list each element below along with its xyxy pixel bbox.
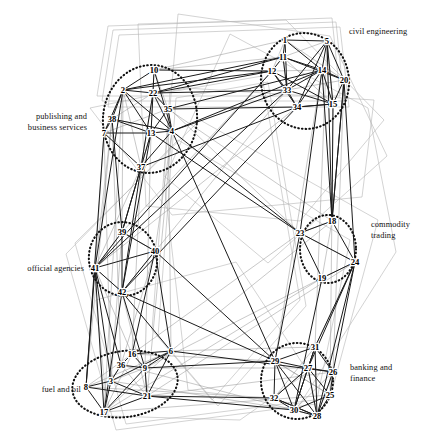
node-label: 17	[100, 407, 109, 417]
node-label: 27	[304, 363, 313, 373]
graph-edge	[168, 109, 332, 221]
node-label: 19	[318, 273, 327, 283]
graph-node-12[interactable]: 1212	[268, 66, 277, 76]
node-label: 42	[118, 287, 127, 297]
graph-node-41[interactable]: 4141	[91, 263, 100, 273]
node-label: 2	[121, 85, 125, 95]
node-label: 31	[311, 342, 320, 352]
node-label: 22	[149, 88, 158, 98]
graph-node-18[interactable]: 1818	[328, 216, 337, 226]
graph-node-21[interactable]: 2121	[143, 391, 152, 401]
graph-node-42[interactable]: 4242	[118, 287, 127, 297]
graph-node-31[interactable]: 3131	[311, 342, 320, 352]
graph-edge	[275, 233, 300, 361]
graph-edge	[132, 251, 155, 354]
figure-canvas: 1155111112121414202033333434151510102222…	[0, 0, 436, 443]
node-label: 34	[293, 102, 302, 112]
graph-node-32[interactable]: 3232	[270, 393, 279, 403]
graph-edge	[154, 40, 285, 70]
graph-node-23[interactable]: 2323	[296, 228, 305, 238]
graph-node-37[interactable]: 3737	[137, 162, 146, 172]
graph-edge	[112, 93, 153, 119]
graph-edge	[171, 221, 332, 351]
graph-node-29[interactable]: 2929	[271, 356, 280, 366]
node-label: 40	[151, 246, 160, 256]
graph-node-34[interactable]: 3434	[293, 102, 302, 112]
graph-node-15[interactable]: 1515	[329, 99, 338, 109]
graph-edge	[104, 90, 123, 133]
node-label: 23	[296, 228, 305, 238]
graph-node-35[interactable]: 3535	[164, 104, 173, 114]
node-label: 8	[84, 382, 89, 392]
node-label: 12	[268, 66, 277, 76]
node-label: 20	[340, 75, 349, 85]
hull-polygon	[164, 14, 387, 263]
node-label: 39	[118, 227, 127, 237]
cluster-label-commodity-trading: commodity trading	[371, 220, 436, 241]
graph-node-1[interactable]: 11	[283, 35, 287, 45]
graph-edge	[285, 40, 327, 41]
graph-node-17[interactable]: 1717	[100, 407, 109, 417]
graph-edge	[297, 104, 333, 107]
node-label: 13	[147, 128, 156, 138]
graph-edge	[322, 70, 332, 221]
node-label: 29	[271, 356, 280, 366]
graph-node-13[interactable]: 1313	[147, 128, 156, 138]
graph-edge	[122, 90, 123, 232]
node-label: 11	[279, 52, 287, 62]
node-label: 7	[102, 128, 107, 138]
hull-polygon	[97, 18, 340, 96]
graph-edge	[283, 57, 344, 80]
graph-node-30[interactable]: 3030	[290, 405, 299, 415]
graph-node-27[interactable]: 2727	[304, 363, 313, 373]
graph-edge	[122, 133, 151, 292]
graph-node-8[interactable]: 88	[84, 382, 89, 392]
graph-edge	[285, 40, 322, 70]
node-label: 10	[150, 65, 159, 75]
graph-node-4[interactable]: 44	[170, 126, 175, 136]
graph-edge	[332, 104, 333, 221]
graph-node-38[interactable]: 3838	[108, 114, 117, 124]
node-label: 38	[108, 114, 117, 124]
graph-node-6[interactable]: 66	[169, 346, 174, 356]
graph-node-39[interactable]: 3939	[118, 227, 127, 237]
graph-node-28[interactable]: 2828	[313, 411, 322, 421]
graph-node-10[interactable]: 1010	[150, 65, 159, 75]
cluster-label-fuel-and-oil: fuel and oil	[0, 385, 81, 396]
graph-node-25[interactable]: 2525	[326, 390, 335, 400]
node-label: 26	[329, 367, 338, 377]
graph-edge	[95, 90, 287, 268]
cluster-label-official-agencies: official agencies	[0, 264, 84, 275]
graph-node-2[interactable]: 22	[121, 85, 125, 95]
node-label: 5	[325, 36, 329, 46]
graph-node-9[interactable]: 99	[143, 363, 147, 373]
graph-edge	[111, 232, 122, 381]
node-label: 36	[117, 360, 126, 370]
node-label: 24	[351, 257, 360, 267]
graph-node-19[interactable]: 1919	[318, 273, 327, 283]
graph-node-26[interactable]: 2626	[329, 367, 338, 377]
graph-node-14[interactable]: 1414	[318, 65, 327, 75]
graph-node-36[interactable]: 3636	[117, 360, 126, 370]
node-label: 14	[318, 65, 327, 75]
graph-node-40[interactable]: 4040	[151, 246, 160, 256]
graph-node-20[interactable]: 2020	[340, 75, 349, 85]
graph-node-11[interactable]: 1111	[279, 52, 287, 62]
graph-node-7[interactable]: 77	[102, 128, 107, 138]
node-label: 16	[128, 349, 137, 359]
node-label: 4	[170, 126, 175, 136]
node-label: 30	[290, 405, 299, 415]
graph-node-3[interactable]: 33	[109, 376, 113, 386]
node-label: 32	[270, 393, 279, 403]
graph-edge	[172, 131, 300, 233]
node-label: 18	[328, 216, 337, 226]
cluster-label-publishing-business-services: publishing and business services	[0, 112, 87, 133]
graph-node-22[interactable]: 2222	[149, 88, 158, 98]
graph-edge	[145, 361, 275, 368]
node-label: 9	[143, 363, 147, 373]
graph-edge	[145, 351, 171, 368]
graph-node-33[interactable]: 3333	[283, 85, 292, 95]
graph-node-16[interactable]: 1616	[128, 349, 137, 359]
graph-node-5[interactable]: 55	[325, 36, 329, 46]
graph-node-24[interactable]: 2424	[351, 257, 360, 267]
